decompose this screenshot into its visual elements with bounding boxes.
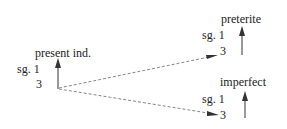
paradigm-diagram: present ind. sg. 1 3 preterite sg. 1 3 i…: [0, 0, 287, 129]
imperfect-sg1-label: sg. 1: [202, 93, 225, 105]
preterite-up-arrow: [239, 26, 245, 55]
imperfect-3-label: 3: [220, 109, 226, 121]
present-3-label: 3: [36, 78, 42, 90]
preterite-title: preterite: [221, 13, 261, 25]
imperfect-title: imperfect: [220, 76, 266, 88]
present-up-arrow: [55, 58, 61, 89]
preterite-3-label: 3: [220, 45, 226, 57]
preterite-sg1-label: sg. 1: [202, 29, 225, 41]
imperfect-up-arrow: [242, 91, 248, 118]
present-sg1-label: sg. 1: [17, 63, 40, 75]
present-title: present ind.: [35, 47, 91, 59]
edge-present-to-imperfect: [59, 89, 219, 116]
